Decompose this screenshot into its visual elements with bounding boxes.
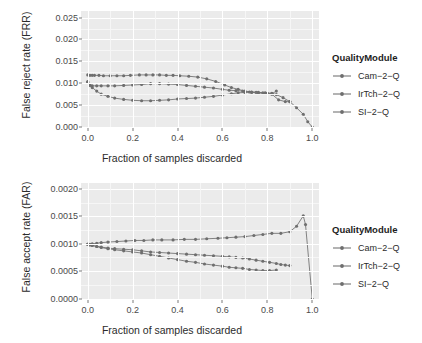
x-tick-mark	[132, 128, 133, 131]
chart-far: False accept rate (FAR) 0.00000.00050.00…	[0, 172, 422, 343]
gridline-minor	[155, 11, 156, 127]
y-tick-mark	[79, 127, 82, 128]
x-tick-label: 0.6	[216, 305, 229, 315]
legend-key-icon	[332, 241, 352, 255]
x-tick-label: 0.0	[81, 133, 94, 143]
y-tick-label: 0.0000	[50, 294, 78, 304]
y-tick-mark	[79, 243, 82, 244]
legend-label: Cam−2−Q	[358, 243, 400, 253]
legend-key-icon	[332, 259, 352, 273]
x-tick-mark	[87, 300, 88, 303]
y-tick-labels-frr: 0.0000.0050.0100.0150.0200.025	[26, 0, 78, 172]
y-tick-mark	[79, 298, 82, 299]
x-tick-mark	[132, 300, 133, 303]
x-tick-mark	[177, 300, 178, 303]
gridline-minor	[245, 11, 246, 127]
x-tick-mark	[267, 300, 268, 303]
gridline-major	[178, 183, 179, 299]
y-tick-label: 0.0020	[50, 184, 78, 194]
y-tick-label: 0.010	[55, 78, 78, 88]
gridline-major	[88, 11, 89, 127]
legend-key-icon	[332, 277, 352, 291]
legend-far: QualityModule Cam−2−Q IrTch−2−Q SI−2−Q	[332, 224, 400, 294]
y-tick-mark	[79, 17, 82, 18]
x-tick-mark	[312, 128, 313, 131]
x-tick-mark	[222, 128, 223, 131]
y-tick-label: 0.025	[55, 13, 78, 23]
gridline-minor	[155, 183, 156, 299]
gridline-major	[178, 11, 179, 127]
x-tick-mark	[267, 128, 268, 131]
legend-key-icon	[332, 69, 352, 83]
legend-frr: QualityModule Cam−2−Q IrTch−2−Q SI−2−Q	[332, 52, 400, 122]
x-tick-label: 0.2	[126, 305, 139, 315]
x-tick-mark	[312, 300, 313, 303]
legend-item-cam-2-q[interactable]: Cam−2−Q	[332, 240, 400, 256]
legend-item-cam-2-q[interactable]: Cam−2−Q	[332, 68, 400, 84]
legend-key-icon	[332, 87, 352, 101]
legend-label: Cam−2−Q	[358, 71, 400, 81]
x-tick-label: 0.2	[126, 133, 139, 143]
x-tick-label: 0.4	[171, 133, 184, 143]
legend-item-irtch-2-q[interactable]: IrTch−2−Q	[332, 86, 400, 102]
y-tick-labels-far: 0.00000.00050.00100.00150.0020	[26, 172, 78, 343]
x-tick-mark	[222, 300, 223, 303]
x-tick-label: 0.8	[261, 305, 274, 315]
gridline-major	[88, 183, 89, 299]
gridline-major	[133, 11, 134, 127]
x-tick-label: 0.0	[81, 305, 94, 315]
gridline-minor	[200, 11, 201, 127]
gridline-major	[222, 183, 223, 299]
legend-title: QualityModule	[332, 52, 400, 63]
y-tick-mark	[79, 105, 82, 106]
gridline-major	[267, 11, 268, 127]
gridline-minor	[245, 183, 246, 299]
x-tick-mark	[87, 128, 88, 131]
gridline-major	[312, 183, 313, 299]
y-tick-label: 0.0015	[50, 211, 78, 221]
y-tick-label: 0.020	[55, 34, 78, 44]
y-tick-mark	[79, 271, 82, 272]
legend-item-si-2-q[interactable]: SI−2−Q	[332, 276, 400, 292]
gridline-major	[133, 183, 134, 299]
x-tick-label: 0.6	[216, 133, 229, 143]
figure-panel: False reject rate (FRR) 0.0000.0050.0100…	[0, 0, 422, 343]
x-axis-title-frr: Fraction of samples discarded	[26, 152, 318, 164]
y-tick-label: 0.0005	[50, 266, 78, 276]
gridline-minor	[110, 11, 111, 127]
x-tick-label: 0.4	[171, 305, 184, 315]
legend-label: IrTch−2−Q	[358, 261, 400, 271]
series-2	[86, 242, 291, 266]
y-tick-mark	[79, 216, 82, 217]
legend-label: SI−2−Q	[358, 107, 389, 117]
chart-frr: False reject rate (FRR) 0.0000.0050.0100…	[0, 0, 422, 172]
legend-title: QualityModule	[332, 224, 400, 235]
legend-key-icon	[332, 105, 352, 119]
y-tick-mark	[79, 189, 82, 190]
legend-label: IrTch−2−Q	[358, 89, 400, 99]
x-tick-mark	[177, 128, 178, 131]
legend-item-si-2-q[interactable]: SI−2−Q	[332, 104, 400, 120]
gridline-minor	[290, 183, 291, 299]
plot-panel-far	[81, 183, 319, 299]
gridline-major	[312, 11, 313, 127]
y-tick-label: 0.005	[55, 100, 78, 110]
legend-label: SI−2−Q	[358, 279, 389, 289]
y-tick-label: 0.000	[55, 122, 78, 132]
gridline-minor	[200, 183, 201, 299]
gridline-major	[267, 183, 268, 299]
x-tick-label: 1.0	[306, 133, 319, 143]
legend-item-irtch-2-q[interactable]: IrTch−2−Q	[332, 258, 400, 274]
y-tick-mark	[79, 83, 82, 84]
gridline-minor	[290, 11, 291, 127]
y-tick-label: 0.015	[55, 56, 78, 66]
gridline-minor	[110, 183, 111, 299]
y-tick-mark	[79, 61, 82, 62]
plot-panel-frr	[81, 11, 319, 127]
y-tick-mark	[79, 39, 82, 40]
x-tick-label: 1.0	[306, 305, 319, 315]
gridline-major	[222, 11, 223, 127]
y-tick-label: 0.0010	[50, 239, 78, 249]
x-tick-label: 0.8	[261, 133, 274, 143]
x-axis-title-far: Fraction of samples discarded	[26, 324, 318, 336]
